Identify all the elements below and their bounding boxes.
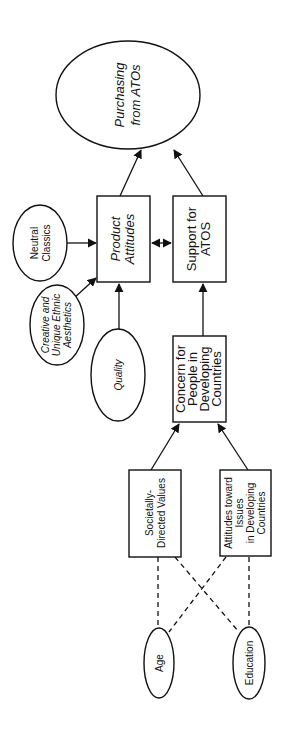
node-label: Neutral bbox=[29, 227, 40, 259]
node-support-for-atos: Support for ATOS bbox=[173, 196, 226, 282]
edge-societally-to-concern bbox=[151, 424, 179, 470]
node-concern-for-people: Concern for People in Developing Countri… bbox=[173, 336, 226, 422]
node-label: Product bbox=[108, 215, 123, 261]
edge-attitudes-to-concern bbox=[218, 424, 248, 470]
node-creative-ethnic-aesthetics: Creative and Unique Ethnic Aesthetics bbox=[30, 285, 84, 365]
node-label: Societally- bbox=[144, 490, 155, 536]
node-label: Education bbox=[244, 641, 255, 685]
node-label: Attitudes bbox=[122, 213, 137, 265]
node-label: Purchasing bbox=[112, 62, 127, 128]
node-label: Support for bbox=[184, 206, 199, 271]
node-label: Countries bbox=[209, 351, 224, 407]
node-label: Aesthetics bbox=[62, 302, 73, 349]
node-neutral-classics: Neutral Classics bbox=[13, 205, 67, 281]
node-label: Attitudes toward bbox=[223, 477, 234, 549]
node-product-attitudes: Product Attitudes bbox=[97, 196, 150, 282]
node-label: from ATOs bbox=[128, 64, 143, 126]
node-label: Directed Values bbox=[156, 478, 167, 548]
edge-education-societally bbox=[175, 557, 239, 632]
path-diagram: Purchasing from ATOs Neutral Classics Cr… bbox=[0, 0, 287, 731]
node-label: Unique Ethnic bbox=[51, 294, 62, 356]
node-label: Issues bbox=[234, 499, 245, 528]
node-label: ATOS bbox=[198, 222, 213, 257]
node-label: Age bbox=[154, 654, 165, 672]
node-age: Age bbox=[144, 628, 174, 698]
edge-product-to-purchasing bbox=[120, 150, 141, 196]
node-label: Countries bbox=[256, 492, 267, 535]
node-societally-directed-values: Societally- Directed Values bbox=[129, 470, 181, 557]
node-purchasing-from-atos: Purchasing from ATOs bbox=[56, 41, 200, 149]
node-education: Education bbox=[233, 627, 265, 699]
node-quality: Quality bbox=[91, 329, 145, 421]
node-label: Creative and bbox=[40, 296, 51, 353]
node-label: Quality bbox=[113, 358, 124, 390]
edge-support-to-purchasing bbox=[174, 150, 203, 196]
edge-creative-to-product bbox=[74, 278, 96, 298]
node-label: in Developing bbox=[245, 483, 256, 544]
node-label: Classics bbox=[41, 224, 52, 261]
node-attitudes-toward-issues: Attitudes toward Issues in Developing Co… bbox=[220, 470, 271, 556]
edge-age-attitudes bbox=[169, 557, 226, 632]
